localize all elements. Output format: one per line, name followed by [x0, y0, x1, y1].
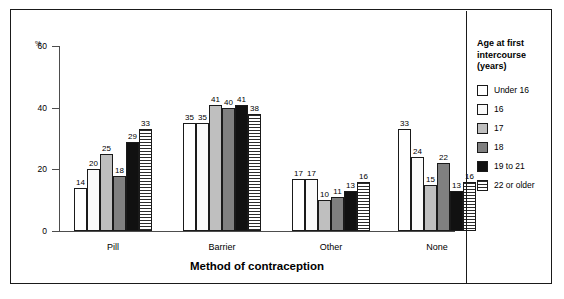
- bar-value-label: 10: [320, 190, 329, 199]
- bar-value-label: 22: [439, 153, 448, 162]
- bar[interactable]: [139, 129, 152, 231]
- legend-item[interactable]: 17: [477, 119, 552, 138]
- bar-value-label: 38: [250, 104, 259, 113]
- legend-item[interactable]: 19 to 21: [477, 157, 552, 176]
- y-tick-mark: [52, 108, 60, 109]
- y-tick-label: 20: [25, 164, 47, 174]
- legend-title: Age at first intercourse (years): [477, 38, 552, 73]
- legend-swatch-icon: [477, 123, 488, 134]
- x-tick-label: None: [392, 242, 482, 252]
- bar-slot: 35: [196, 45, 209, 231]
- bar-slot: 13: [344, 45, 357, 231]
- bar-value-label: 14: [76, 178, 85, 187]
- bar[interactable]: [222, 108, 235, 231]
- legend-swatch-icon: [477, 85, 488, 96]
- bar-slot: 24: [411, 45, 424, 231]
- bar[interactable]: [87, 169, 100, 231]
- bar[interactable]: [126, 142, 139, 231]
- bar-slot: 41: [235, 45, 248, 231]
- bar-slot: 15: [424, 45, 437, 231]
- legend-item[interactable]: 22 or older: [477, 176, 552, 195]
- legend: Age at first intercourse (years) Under 1…: [477, 38, 552, 195]
- bar-group-bars: 171710111316: [292, 45, 370, 231]
- legend-swatch-icon: [477, 104, 488, 115]
- bar[interactable]: [437, 163, 450, 231]
- bar[interactable]: [318, 200, 331, 231]
- bar-value-label: 16: [359, 172, 368, 181]
- y-tick-mark: [52, 231, 60, 232]
- bar[interactable]: [248, 114, 261, 231]
- bar[interactable]: [463, 182, 476, 231]
- bar-slot: 29: [126, 45, 139, 231]
- legend-item[interactable]: 16: [477, 100, 552, 119]
- bar-slot: 40: [222, 45, 235, 231]
- bar[interactable]: [331, 197, 344, 231]
- y-axis-line: [59, 46, 60, 232]
- bar[interactable]: [344, 191, 357, 231]
- bar-value-label: 24: [413, 147, 422, 156]
- legend-label: 16: [494, 104, 503, 114]
- bar-slot: 16: [463, 45, 476, 231]
- bar[interactable]: [292, 179, 305, 231]
- bar[interactable]: [209, 105, 222, 231]
- bar-group-bars: 142025182933: [74, 45, 152, 231]
- x-tick-label: Barrier: [177, 242, 267, 252]
- bar-value-label: 29: [128, 132, 137, 141]
- bar[interactable]: [196, 123, 209, 231]
- bar-slot: 20: [87, 45, 100, 231]
- bar-value-label: 35: [198, 113, 207, 122]
- bar[interactable]: [398, 129, 411, 231]
- bar-slot: 33: [398, 45, 411, 231]
- bar-value-label: 35: [185, 113, 194, 122]
- legend-swatch-icon: [477, 180, 488, 191]
- legend-item[interactable]: Under 16: [477, 81, 552, 100]
- bar[interactable]: [450, 191, 463, 231]
- bar-slot: 25: [100, 45, 113, 231]
- bar-slot: 33: [139, 45, 152, 231]
- bar-value-label: 18: [115, 166, 124, 175]
- bar-value-label: 13: [346, 181, 355, 190]
- x-axis-title: Method of contraception: [59, 260, 455, 272]
- y-tick-label: 40: [25, 103, 47, 113]
- legend-item[interactable]: 18: [477, 138, 552, 157]
- bar-slot: 16: [357, 45, 370, 231]
- legend-swatch-icon: [477, 142, 488, 153]
- bar-slot: 10: [318, 45, 331, 231]
- legend-label: Under 16: [494, 85, 529, 95]
- bar[interactable]: [113, 176, 126, 232]
- bar[interactable]: [100, 154, 113, 231]
- bar-value-label: 33: [141, 119, 150, 128]
- bar-slot: 11: [331, 45, 344, 231]
- bar-group-bars: 353541404138: [183, 45, 261, 231]
- bar-value-label: 40: [224, 98, 233, 107]
- bar[interactable]: [411, 157, 424, 231]
- y-tick-label: 0: [25, 226, 47, 236]
- bar-slot: 38: [248, 45, 261, 231]
- bar-value-label: 41: [211, 95, 220, 104]
- bar-slot: 18: [113, 45, 126, 231]
- bar-slot: 35: [183, 45, 196, 231]
- chart-figure: % 0204060 142025182933Pill353541404138Ba…: [10, 9, 552, 284]
- bar[interactable]: [74, 188, 87, 231]
- bar-group-bars: 332415221316: [398, 45, 476, 231]
- bar[interactable]: [424, 185, 437, 231]
- bar-value-label: 15: [426, 175, 435, 184]
- x-tick-label: Pill: [68, 242, 158, 252]
- bar-value-label: 17: [294, 169, 303, 178]
- legend-label: 19 to 21: [494, 161, 525, 171]
- bar[interactable]: [305, 179, 318, 231]
- legend-items: Under 1616171819 to 2122 or older: [477, 81, 552, 195]
- bar-slot: 13: [450, 45, 463, 231]
- bar-slot: 14: [74, 45, 87, 231]
- bar-slot: 17: [292, 45, 305, 231]
- bar[interactable]: [183, 123, 196, 231]
- bar[interactable]: [357, 182, 370, 231]
- x-axis-line: [59, 231, 455, 232]
- bar[interactable]: [235, 105, 248, 231]
- legend-divider: [466, 11, 467, 284]
- bar-value-label: 13: [452, 181, 461, 190]
- y-tick-mark: [52, 46, 60, 47]
- legend-swatch-icon: [477, 161, 488, 172]
- legend-label: 17: [494, 123, 503, 133]
- plot-area: % 0204060 142025182933Pill353541404138Ba…: [11, 10, 466, 285]
